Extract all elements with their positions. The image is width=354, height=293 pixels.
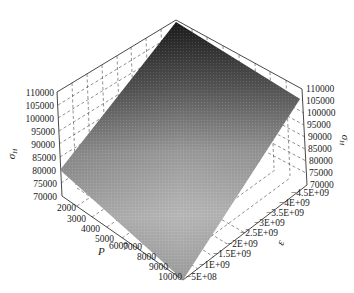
z-axis-right: 110000 105000 100000 95000 90000 85000 8… <box>306 84 336 190</box>
svg-text:−1.5E+09: −1.5E+09 <box>213 249 251 259</box>
svg-text:80000: 80000 <box>32 166 56 176</box>
svg-text:−5E+08: −5E+08 <box>186 272 217 282</box>
svg-text:85000: 85000 <box>308 144 332 154</box>
svg-text:80000: 80000 <box>309 156 333 166</box>
svg-text:110000: 110000 <box>306 84 334 94</box>
svg-text:ε: ε <box>274 238 287 247</box>
svg-text:90000: 90000 <box>31 140 55 150</box>
svg-text:95000: 95000 <box>31 127 55 137</box>
y-axis-label: ε <box>274 238 287 247</box>
svg-text:90000: 90000 <box>308 132 332 142</box>
z-axis-left: 110000 105000 100000 95000 90000 85000 8… <box>26 88 58 202</box>
z-axis-left-label: σH <box>5 148 19 159</box>
svg-text:70000: 70000 <box>33 192 57 202</box>
z-axis-right-label: σH <box>338 135 352 146</box>
svg-text:−1E+09: −1E+09 <box>199 260 230 270</box>
svg-text:−2E+09: −2E+09 <box>227 239 258 249</box>
svg-text:2000: 2000 <box>57 203 76 213</box>
svg-text:−4E+09: −4E+09 <box>279 198 310 208</box>
svg-text:4000: 4000 <box>81 224 100 234</box>
svg-text:9000: 9000 <box>149 262 168 272</box>
svg-text:σH: σH <box>5 148 19 159</box>
x-axis-label: P <box>97 245 105 257</box>
svg-text:75000: 75000 <box>33 179 57 189</box>
surface-chart: 110000 105000 100000 95000 90000 85000 8… <box>0 0 354 293</box>
svg-text:8000: 8000 <box>137 252 156 262</box>
svg-text:110000: 110000 <box>26 88 54 98</box>
svg-text:−3.5E+09: −3.5E+09 <box>266 208 304 218</box>
svg-text:100000: 100000 <box>307 108 336 118</box>
svg-text:σH: σH <box>338 135 352 146</box>
svg-text:3000: 3000 <box>67 214 86 224</box>
svg-text:100000: 100000 <box>26 114 55 124</box>
svg-text:75000: 75000 <box>309 168 333 178</box>
svg-text:−3E+09: −3E+09 <box>254 218 285 228</box>
svg-text:−4.5E+09: −4.5E+09 <box>291 188 329 198</box>
svg-text:7000: 7000 <box>123 242 142 252</box>
svg-text:105000: 105000 <box>26 101 55 111</box>
svg-text:10000: 10000 <box>158 272 182 282</box>
svg-text:105000: 105000 <box>306 96 335 106</box>
svg-text:−2.5E+09: −2.5E+09 <box>240 228 278 238</box>
svg-text:85000: 85000 <box>32 153 56 163</box>
svg-text:95000: 95000 <box>307 120 331 130</box>
